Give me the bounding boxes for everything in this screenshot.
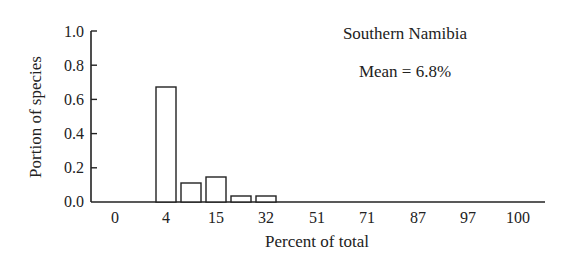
x-tick-label: 100 [506, 209, 530, 226]
y-ticks [91, 31, 97, 168]
bar [156, 87, 176, 202]
x-tick-label: 97 [460, 209, 476, 226]
y-tick-label: 0.0 [64, 193, 84, 210]
bar [231, 196, 251, 202]
chart-title: Southern Namibia [343, 24, 468, 43]
bar [181, 183, 201, 202]
bar [256, 196, 276, 202]
y-tick-labels: 0.0 0.2 0.4 0.6 0.8 1.0 [64, 23, 84, 210]
y-axis-label: Portion of species [26, 56, 45, 178]
x-tick-label: 0 [111, 209, 119, 226]
y-tick-label: 1.0 [64, 23, 84, 40]
y-tick-label: 0.2 [64, 159, 84, 176]
y-tick-label: 0.4 [64, 125, 84, 142]
bar [206, 177, 226, 202]
histogram-chart: 0.0 0.2 0.4 0.6 0.8 1.0 Portion of speci… [0, 0, 576, 265]
x-tick-label: 71 [359, 209, 375, 226]
x-axis-label: Percent of total [265, 232, 369, 251]
x-tick-label: 32 [258, 209, 274, 226]
mean-annotation: Mean = 6.8% [359, 62, 451, 81]
y-tick-label: 0.8 [64, 57, 84, 74]
bars [156, 87, 276, 202]
y-tick-label: 0.6 [64, 91, 84, 108]
x-tick-labels: 0 4 15 32 51 71 87 97 100 [111, 209, 530, 226]
x-tick-label: 51 [309, 209, 325, 226]
x-tick-label: 4 [162, 209, 170, 226]
x-tick-label: 87 [410, 209, 426, 226]
x-tick-label: 15 [208, 209, 224, 226]
